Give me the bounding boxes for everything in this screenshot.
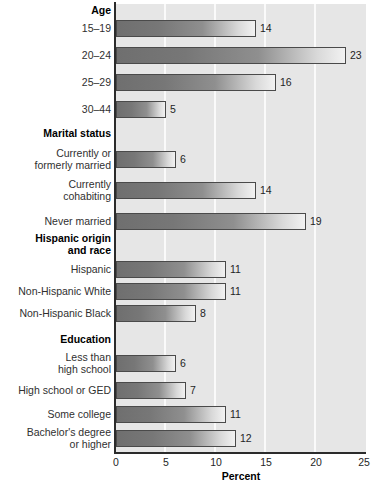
bar-row: Currently cohabiting 14 (0, 182, 371, 200)
bar-value-label: 11 (230, 285, 241, 297)
bar-value-label: 23 (350, 49, 362, 61)
bar-row: Currently or formerly married 6 (0, 151, 371, 169)
bar-row-label: 30–44 (0, 104, 111, 115)
bar-row-label: Currently cohabiting (0, 179, 111, 202)
bar-container (116, 430, 236, 448)
x-axis-title: Percent (116, 470, 366, 482)
group-heading-hispanic-origin-and-race: Hispanic origin and race (0, 233, 111, 256)
bar (116, 261, 226, 278)
group-heading-education: Education (0, 334, 111, 346)
bar-row: Bachelor's degree or higher 12 (0, 430, 371, 448)
bar (116, 430, 236, 447)
bar-row: 30–44 5 (0, 101, 371, 119)
bar-value-label: 6 (180, 153, 186, 165)
bar (116, 20, 256, 37)
bar-value-label: 19 (310, 215, 322, 227)
bar (116, 406, 226, 423)
bar-container (116, 74, 276, 92)
bar-row-label: Bachelor's degree or higher (0, 427, 111, 450)
bar-container (116, 182, 256, 200)
bar (116, 151, 176, 168)
bar-row: 25–29 16 (0, 74, 371, 92)
bar-row: Non-Hispanic White 11 (0, 283, 371, 301)
bar (116, 355, 176, 372)
bar-container (116, 47, 346, 65)
bar-row: Non-Hispanic Black 8 (0, 305, 371, 323)
x-tick-20: 20 (310, 456, 322, 468)
x-tick-15: 15 (260, 456, 272, 468)
x-tick-5: 5 (163, 456, 169, 468)
bar-row-label: 25–29 (0, 77, 111, 88)
bar-container (116, 305, 196, 323)
group-heading-marital-status: Marital status (0, 128, 111, 140)
bar (116, 47, 346, 64)
bar (116, 213, 306, 230)
bar-row-label: Non-Hispanic White (0, 286, 111, 297)
x-tick-25: 25 (358, 456, 370, 468)
bar-container (116, 101, 166, 119)
bar-container (116, 213, 306, 231)
x-tick-0: 0 (113, 456, 119, 468)
bar (116, 74, 276, 91)
bar-container (116, 355, 176, 373)
bar-value-label: 7 (190, 384, 196, 396)
bar-row: High school or GED 7 (0, 382, 371, 400)
bar-row: Never married 19 (0, 213, 371, 231)
bar-row-label: Never married (0, 216, 111, 227)
bar-row: Some college 11 (0, 406, 371, 424)
bar-container (116, 406, 226, 424)
bar (116, 182, 256, 199)
bar-container (116, 382, 186, 400)
bar-chart: Age 15–19 14 20–24 23 25–29 16 30–44 5 M… (0, 0, 371, 486)
bar-value-label: 16 (280, 76, 292, 88)
x-tick-10: 10 (210, 456, 222, 468)
bar-container (116, 151, 176, 169)
bar-value-label: 12 (240, 432, 252, 444)
x-axis-line (114, 452, 366, 454)
bar-row-label: High school or GED (0, 385, 111, 396)
bar-row-label: 20–24 (0, 50, 111, 61)
bar-row-label: Some college (0, 409, 111, 420)
bar-container (116, 261, 226, 279)
bar-row: Less than high school 6 (0, 355, 371, 373)
bar-row-label: Non-Hispanic Black (0, 308, 111, 319)
bar-container (116, 283, 226, 301)
bar-value-label: 14 (260, 184, 272, 196)
bar (116, 101, 166, 118)
bar (116, 283, 226, 300)
bar-row-label: 15–19 (0, 23, 111, 34)
bar-value-label: 14 (260, 22, 272, 34)
bar-row: 20–24 23 (0, 47, 371, 65)
group-heading-age: Age (0, 5, 111, 17)
bar (116, 382, 186, 399)
bar-value-label: 5 (170, 103, 176, 115)
bar-row-label: Hispanic (0, 264, 111, 275)
bar-value-label: 6 (180, 357, 186, 369)
bar-row-label: Currently or formerly married (0, 148, 111, 171)
bar-row: 15–19 14 (0, 20, 371, 38)
bar-value-label: 11 (230, 408, 241, 420)
bar-row: Hispanic 11 (0, 261, 371, 279)
bar-value-label: 8 (200, 307, 206, 319)
bar-container (116, 20, 256, 38)
bar-row-label: Less than high school (0, 352, 111, 375)
bar (116, 305, 196, 322)
bar-value-label: 11 (230, 263, 241, 275)
